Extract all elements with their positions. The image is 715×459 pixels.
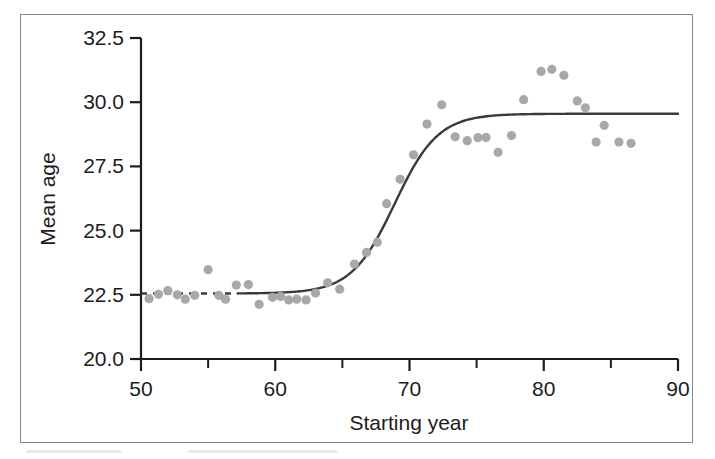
x-tick-label-50: 50 — [129, 377, 152, 400]
data-point — [255, 300, 264, 309]
x-tick-label-90: 90 — [666, 377, 689, 400]
data-point — [437, 100, 446, 109]
data-point — [451, 132, 460, 141]
data-point — [614, 137, 623, 146]
data-point — [350, 259, 359, 268]
data-point — [268, 293, 277, 302]
data-point — [559, 71, 568, 80]
y-tick-label-20.0: 20.0 — [83, 347, 124, 370]
data-point — [190, 291, 199, 300]
figure-root: 20.022.525.027.530.032.5 5060708090 Mean… — [0, 0, 715, 459]
data-point — [292, 295, 301, 304]
data-point — [311, 288, 320, 297]
y-tick-label-25.0: 25.0 — [83, 219, 124, 242]
figure-border-frame: 20.022.525.027.530.032.5 5060708090 Mean… — [20, 14, 693, 443]
y-tick-label-32.5: 32.5 — [83, 26, 124, 49]
data-point — [422, 119, 431, 128]
data-point — [409, 150, 418, 159]
data-point — [323, 278, 332, 287]
x-tick-label-80: 80 — [532, 377, 555, 400]
data-point — [154, 290, 163, 299]
y-tick-label-30.0: 30.0 — [83, 90, 124, 113]
data-point — [547, 65, 556, 74]
data-point — [362, 248, 371, 257]
y-tick-label-27.5: 27.5 — [83, 154, 124, 177]
data-point — [382, 199, 391, 208]
data-point — [573, 96, 582, 105]
data-point — [232, 280, 241, 289]
data-point — [163, 286, 172, 295]
data-point — [592, 137, 601, 146]
data-point — [519, 95, 528, 104]
data-point — [463, 136, 472, 145]
data-point — [507, 131, 516, 140]
data-point — [494, 148, 503, 157]
data-point — [244, 280, 253, 289]
data-point — [302, 295, 311, 304]
data-point — [536, 67, 545, 76]
y-tick-label-22.5: 22.5 — [83, 283, 124, 306]
data-point — [221, 295, 230, 304]
x-tick-label-60: 60 — [264, 377, 287, 400]
data-point — [626, 139, 635, 148]
data-point — [204, 265, 213, 274]
y-axis-title: Mean age — [36, 152, 59, 245]
x-axis-title: Starting year — [349, 411, 468, 434]
data-point — [173, 290, 182, 299]
data-point — [600, 121, 609, 130]
data-point — [473, 133, 482, 142]
data-point — [396, 175, 405, 184]
mean-age-vs-starting-year-chart: 20.022.525.027.530.032.5 5060708090 Mean… — [21, 15, 692, 442]
data-point — [276, 292, 285, 301]
data-point — [581, 103, 590, 112]
x-tick-label-70: 70 — [398, 377, 421, 400]
data-point — [284, 295, 293, 304]
data-point — [181, 295, 190, 304]
data-point — [144, 294, 153, 303]
data-point — [335, 285, 344, 294]
page-smudge-left — [26, 450, 122, 453]
data-point — [373, 238, 382, 247]
page-smudge-right — [188, 450, 338, 453]
data-point — [481, 133, 490, 142]
